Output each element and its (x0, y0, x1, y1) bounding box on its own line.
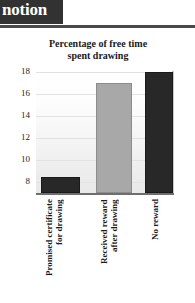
header-divider-rule (0, 25, 195, 28)
bar-2 (96, 83, 132, 193)
page-header: notion (0, 0, 195, 29)
y-tick-label-8: 8 (8, 177, 30, 186)
y-tick-label-16: 16 (8, 89, 30, 98)
bar-chart-figure: Percentage of free time spent drawing 18… (0, 29, 195, 303)
y-tick-label-18: 18 (8, 67, 30, 76)
chart-title-line-1: Percentage of free time (12, 38, 184, 50)
bar-3 (145, 72, 173, 193)
y-tick-label-12: 12 (8, 133, 30, 142)
y-tick-label-14: 14 (8, 111, 30, 120)
page-title: notion (2, 0, 68, 22)
chart-title-line-2: spent drawing (12, 50, 184, 62)
chart-title: Percentage of free time spent drawing (12, 38, 184, 61)
x-axis-baseline (36, 193, 174, 195)
bar-1 (41, 177, 80, 194)
y-tick-label-10: 10 (8, 155, 30, 164)
x-category-label-1: Promised certificate for drawing (44, 199, 64, 299)
header-white-box (63, 0, 195, 23)
x-category-label-3: No reward (150, 199, 160, 299)
x-category-label-2: Received reward after drawing (99, 199, 119, 299)
